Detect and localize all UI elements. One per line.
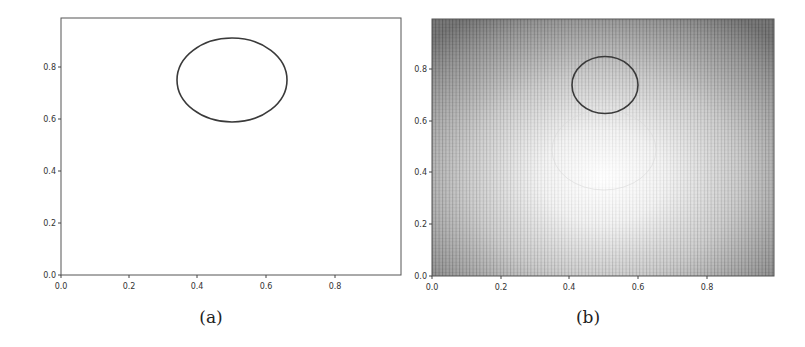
x-tick-label: 0.4 xyxy=(191,282,204,291)
x-tick-label: 0.6 xyxy=(632,283,645,292)
y-tick-label: 0.2 xyxy=(43,219,56,228)
field-grid-texture-b xyxy=(432,19,774,276)
x-tick-label: 0.8 xyxy=(329,282,342,291)
x-tick-label: 0.0 xyxy=(426,283,439,292)
y-axis-a: 0.0 0.2 0.4 0.6 0.8 xyxy=(43,63,61,280)
y-tick-label: 0.6 xyxy=(414,117,427,126)
panel-b: 0.0 0.2 0.4 0.6 0.8 0.0 0.2 0.4 0.6 0.8 … xyxy=(414,19,774,327)
y-tick-label: 0.4 xyxy=(414,168,427,177)
x-axis-a: 0.0 0.2 0.4 0.6 0.8 xyxy=(55,275,342,291)
x-tick-label: 0.2 xyxy=(123,282,136,291)
y-tick-label: 0.0 xyxy=(43,271,56,280)
x-tick-label: 0.0 xyxy=(55,282,68,291)
y-tick-label: 0.4 xyxy=(43,167,56,176)
panel-a: 0.0 0.2 0.4 0.6 0.8 0.0 0.2 0.4 0.6 0.8 … xyxy=(43,18,401,327)
x-tick-label: 0.2 xyxy=(495,283,508,292)
y-tick-label: 0.2 xyxy=(414,220,427,229)
x-tick-label: 0.4 xyxy=(563,283,576,292)
x-tick-label: 0.6 xyxy=(260,282,273,291)
x-tick-label: 0.8 xyxy=(701,283,714,292)
y-axis-b: 0.0 0.2 0.4 0.6 0.8 xyxy=(414,65,432,281)
plot-area-a xyxy=(61,18,401,275)
caption-a: (a) xyxy=(199,307,222,327)
y-tick-label: 0.8 xyxy=(43,63,56,72)
figure: 0.0 0.2 0.4 0.6 0.8 0.0 0.2 0.4 0.6 0.8 … xyxy=(0,0,805,347)
y-tick-label: 0.8 xyxy=(414,65,427,74)
y-tick-label: 0.0 xyxy=(414,272,427,281)
x-axis-b: 0.0 0.2 0.4 0.6 0.8 xyxy=(426,276,714,292)
y-tick-label: 0.6 xyxy=(43,115,56,124)
caption-b: (b) xyxy=(576,307,600,327)
